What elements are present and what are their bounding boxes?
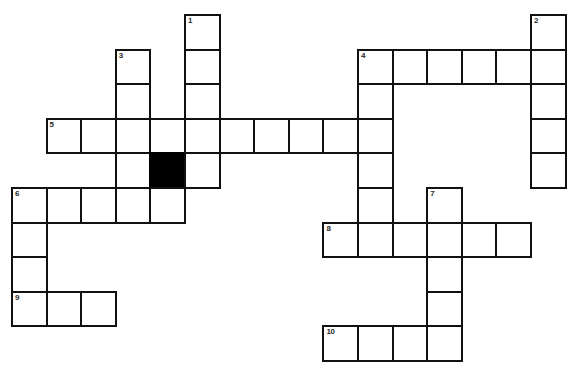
crossword-clue-number: 6 [15, 189, 19, 198]
crossword-cell[interactable] [357, 325, 394, 362]
crossword-clue-number: 1 [188, 16, 192, 25]
crossword-cell[interactable] [80, 187, 117, 224]
crossword-block-cell [149, 152, 186, 189]
crossword-cell[interactable] [115, 187, 152, 224]
crossword-cell[interactable] [357, 118, 394, 155]
crossword-cell[interactable]: 10 [322, 325, 359, 362]
crossword-clue-number: 5 [50, 120, 54, 129]
crossword-cell[interactable] [115, 83, 152, 120]
crossword-cell[interactable] [495, 49, 532, 86]
crossword-cell[interactable] [426, 222, 463, 259]
crossword-clue-number: 7 [430, 189, 434, 198]
crossword-cell[interactable] [11, 222, 48, 259]
crossword-cell[interactable] [80, 291, 117, 328]
crossword-grid: 12345678910 [0, 0, 573, 383]
crossword-cell[interactable] [461, 49, 498, 86]
crossword-cell[interactable] [426, 49, 463, 86]
crossword-cell[interactable]: 6 [11, 187, 48, 224]
crossword-cell[interactable] [357, 152, 394, 189]
crossword-cell[interactable] [426, 291, 463, 328]
crossword-cell[interactable] [149, 118, 186, 155]
crossword-cell[interactable]: 1 [184, 14, 221, 51]
crossword-cell[interactable] [80, 118, 117, 155]
crossword-clue-number: 4 [361, 51, 365, 60]
crossword-clue-number: 9 [15, 293, 19, 302]
crossword-cell[interactable] [115, 118, 152, 155]
crossword-cell[interactable] [392, 49, 429, 86]
crossword-cell[interactable] [288, 118, 325, 155]
crossword-cell[interactable] [322, 118, 359, 155]
crossword-cell[interactable]: 5 [46, 118, 83, 155]
crossword-clue-number: 10 [326, 327, 334, 336]
crossword-cell[interactable]: 9 [11, 291, 48, 328]
crossword-cell[interactable]: 7 [426, 187, 463, 224]
crossword-cell[interactable] [184, 152, 221, 189]
crossword-cell[interactable] [149, 187, 186, 224]
crossword-cell[interactable]: 4 [357, 49, 394, 86]
crossword-cell[interactable] [184, 49, 221, 86]
crossword-cell[interactable] [357, 187, 394, 224]
crossword-cell[interactable] [184, 118, 221, 155]
crossword-cell[interactable] [530, 83, 567, 120]
crossword-cell[interactable] [426, 325, 463, 362]
crossword-cell[interactable] [11, 256, 48, 293]
crossword-cell[interactable] [46, 291, 83, 328]
crossword-clue-number: 2 [534, 16, 538, 25]
crossword-cell[interactable] [46, 187, 83, 224]
crossword-cell[interactable]: 8 [322, 222, 359, 259]
crossword-cell[interactable] [357, 83, 394, 120]
crossword-cell[interactable] [530, 118, 567, 155]
crossword-cell[interactable] [392, 325, 429, 362]
crossword-cell[interactable] [495, 222, 532, 259]
crossword-cell[interactable] [115, 152, 152, 189]
crossword-cell[interactable] [530, 152, 567, 189]
crossword-cell[interactable]: 2 [530, 14, 567, 51]
crossword-cell[interactable] [219, 118, 256, 155]
crossword-cell[interactable] [184, 83, 221, 120]
crossword-cell[interactable] [392, 222, 429, 259]
crossword-cell[interactable] [253, 118, 290, 155]
crossword-clue-number: 8 [326, 224, 330, 233]
crossword-clue-number: 3 [119, 51, 123, 60]
crossword-cell[interactable] [426, 256, 463, 293]
crossword-cell[interactable]: 3 [115, 49, 152, 86]
crossword-cell[interactable] [530, 49, 567, 86]
crossword-cell[interactable] [461, 222, 498, 259]
crossword-cell[interactable] [357, 222, 394, 259]
